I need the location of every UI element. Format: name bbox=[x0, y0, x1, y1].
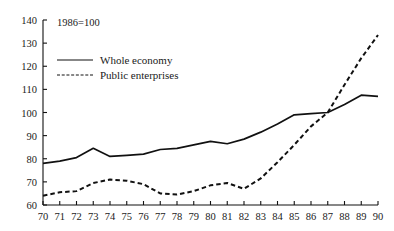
legend-label-public-enterprises: Public enterprises bbox=[100, 69, 179, 81]
x-tick-label: 74 bbox=[105, 211, 116, 222]
x-tick-label: 78 bbox=[172, 211, 183, 222]
x-tick-label: 71 bbox=[55, 211, 66, 222]
x-tick-label: 75 bbox=[122, 211, 133, 222]
x-tick-label: 88 bbox=[339, 211, 350, 222]
x-tick-label: 80 bbox=[205, 211, 216, 222]
x-tick-label: 77 bbox=[155, 211, 166, 222]
index-line-chart: 60708090100110120130140 7071727374757677… bbox=[0, 0, 394, 231]
y-tick-label: 120 bbox=[6, 61, 37, 72]
series-line-whole-economy bbox=[43, 95, 378, 163]
x-tick-label: 76 bbox=[138, 211, 149, 222]
x-tick-label: 89 bbox=[356, 211, 367, 222]
solid-line-swatch bbox=[57, 55, 93, 65]
y-tick-label: 70 bbox=[6, 176, 37, 187]
chart-legend: Whole economy Public enterprises bbox=[57, 52, 179, 82]
x-tick-label: 84 bbox=[272, 211, 283, 222]
legend-item-public-enterprises: Public enterprises bbox=[57, 67, 179, 82]
y-tick-label: 90 bbox=[6, 130, 37, 141]
x-tick-label: 82 bbox=[239, 211, 250, 222]
y-tick-label: 100 bbox=[6, 107, 37, 118]
x-tick-label: 87 bbox=[323, 211, 334, 222]
plot-area bbox=[0, 0, 394, 231]
y-tick-label: 130 bbox=[6, 38, 37, 49]
x-tick-label: 79 bbox=[189, 211, 200, 222]
base-year-annotation: 1986=100 bbox=[57, 17, 100, 28]
x-tick-label: 73 bbox=[88, 211, 99, 222]
x-tick-label: 90 bbox=[373, 211, 384, 222]
y-tick-label: 110 bbox=[6, 84, 37, 95]
y-tick-label: 80 bbox=[6, 153, 37, 164]
y-tick-label: 140 bbox=[6, 15, 37, 26]
y-tick-label: 60 bbox=[6, 200, 37, 211]
x-tick-label: 83 bbox=[256, 211, 267, 222]
x-tick-label: 72 bbox=[71, 211, 82, 222]
x-tick-label: 85 bbox=[289, 211, 300, 222]
legend-label-whole-economy: Whole economy bbox=[100, 54, 172, 66]
x-tick-label: 81 bbox=[222, 211, 233, 222]
x-tick-label: 70 bbox=[38, 211, 49, 222]
dashed-line-swatch bbox=[57, 70, 93, 80]
legend-item-whole-economy: Whole economy bbox=[57, 52, 179, 67]
x-tick-label: 86 bbox=[306, 211, 317, 222]
